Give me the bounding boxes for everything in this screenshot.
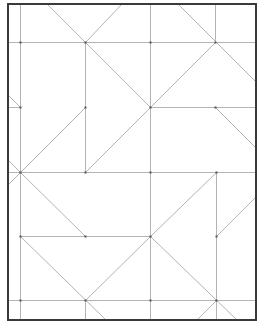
vertex-dot xyxy=(20,300,22,302)
vertex-dot xyxy=(150,300,152,302)
crease-line-d-b xyxy=(86,5,122,43)
crease-vertices xyxy=(20,42,218,302)
vertex-dot xyxy=(150,107,152,109)
crease-line-d-g xyxy=(9,96,21,108)
vertex-dot xyxy=(150,42,152,44)
crease-line-d-l xyxy=(151,173,217,237)
crease-line-d-f xyxy=(21,108,86,173)
paper-border xyxy=(8,4,256,320)
vertex-dot xyxy=(215,107,217,109)
crease-line-d-k xyxy=(21,173,86,237)
crease-line-d-c xyxy=(179,5,257,83)
crease-line-d-n xyxy=(21,237,107,321)
crease-line-d-q xyxy=(197,301,217,321)
crease-lines xyxy=(9,5,257,321)
vertex-dot xyxy=(85,236,87,238)
crease-line-d-e xyxy=(86,108,151,173)
vertex-dot xyxy=(216,172,218,174)
crease-line-d-o xyxy=(86,237,151,301)
vertex-dot xyxy=(85,107,87,109)
crease-line-d-d xyxy=(151,43,216,108)
vertex-dot xyxy=(20,107,22,109)
crease-line-d-m xyxy=(217,197,257,237)
vertex-dot xyxy=(20,42,22,44)
vertex-dot xyxy=(20,236,22,238)
vertex-dot xyxy=(150,236,152,238)
vertex-dot xyxy=(216,236,218,238)
crease-line-d-p xyxy=(151,237,238,321)
crease-line-d-h xyxy=(216,108,257,149)
vertex-dot xyxy=(216,300,218,302)
vertex-dot xyxy=(85,300,87,302)
vertex-dot xyxy=(215,42,217,44)
vertex-dot xyxy=(150,172,152,174)
vertex-dot xyxy=(85,42,87,44)
vertex-dot xyxy=(85,172,87,174)
crease-line-d-a xyxy=(48,5,151,108)
crease-line-d-i xyxy=(9,161,21,173)
crease-line-d-j xyxy=(9,173,21,185)
crease-pattern-diagram xyxy=(0,0,261,333)
vertex-dot xyxy=(20,172,22,174)
